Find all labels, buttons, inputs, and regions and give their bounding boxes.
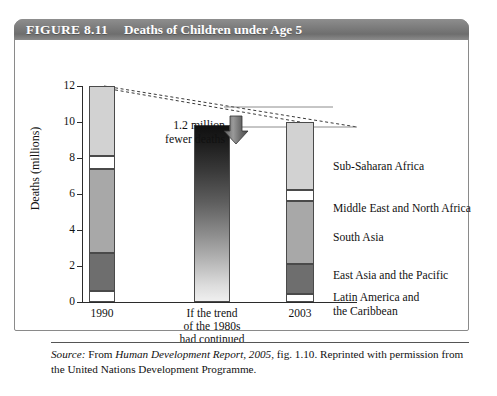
source-label: Source: [51, 348, 85, 360]
x-axis-line [82, 302, 357, 303]
y-axis-title: Deaths (millions) [28, 104, 43, 234]
y-tick-mark-12 [77, 86, 82, 87]
y-axis-line [82, 86, 83, 302]
bar-trend-1980s [194, 125, 230, 302]
y-tick-mark-2 [77, 266, 82, 267]
legend-label-east-asia-pacific: East Asia and the Pacific [333, 269, 483, 283]
y-tick-label-12: 12 [51, 80, 75, 92]
bar-2003-segment-south-asia [286, 201, 314, 264]
bar-2003 [286, 122, 314, 302]
bar-2003-segment-middle-east-north-africa [286, 190, 314, 201]
bar-1990-x-label: 1990 [72, 307, 132, 320]
figure-header-bar: FIGURE 8.11 Deaths of Children under Age… [14, 19, 469, 40]
bar-2003-x-label: 2003 [270, 307, 330, 320]
y-tick-label-8: 8 [51, 152, 75, 164]
bar-1990-segment-east-asia-pacific [89, 253, 115, 291]
y-tick-mark-0 [77, 302, 82, 303]
bar-1990 [89, 86, 115, 302]
bar-1990-segment-south-asia [89, 169, 115, 254]
y-tick-mark-6 [77, 194, 82, 195]
source-work-title: Human Development Report, 2005 [115, 348, 271, 360]
y-tick-label-4: 4 [51, 224, 75, 236]
bar-1990-segment-latin-america-caribbean [89, 291, 115, 302]
annotation-callout-text: 1.2 million fewer deaths [133, 119, 225, 147]
figure-title: Deaths of Children under Age 5 [124, 22, 302, 38]
bar-2003-segment-east-asia-pacific [286, 264, 314, 294]
chart-plot-area: Deaths (millions) 024681012 1990 If the … [15, 41, 468, 330]
bar-trend-x-label: If the trend of the 1980s had continued [162, 307, 262, 347]
y-tick-label-2: 2 [51, 260, 75, 272]
bar-2003-segment-latin-america-caribbean [286, 294, 314, 302]
legend-label-south-asia: South Asia [333, 231, 473, 245]
legend-label-latin-america-caribbean: Latin America and the Caribbean [333, 291, 473, 319]
y-tick-label-10: 10 [51, 116, 75, 128]
source-text-1: From [85, 348, 115, 360]
bar-1990-segment-middle-east-north-africa [89, 156, 115, 169]
bar-1990-segment-sub-saharan-africa [89, 86, 115, 156]
bar-2003-segment-sub-saharan-africa [286, 122, 314, 190]
legend-label-sub-saharan-africa: Sub-Saharan Africa [333, 160, 473, 174]
down-arrow-icon [223, 115, 249, 145]
y-tick-mark-4 [77, 230, 82, 231]
y-tick-mark-8 [77, 158, 82, 159]
source-divider [51, 342, 469, 343]
y-tick-mark-10 [77, 122, 82, 123]
y-tick-label-0: 0 [51, 296, 75, 308]
figure-number: FIGURE 8.11 [26, 22, 108, 38]
y-tick-label-6: 6 [51, 188, 75, 200]
legend-label-middle-east-north-africa: Middle East and North Africa [333, 202, 483, 216]
source-note: Source: From Human Development Report, 2… [51, 347, 471, 377]
figure-box: FIGURE 8.11 Deaths of Children under Age… [14, 19, 469, 331]
